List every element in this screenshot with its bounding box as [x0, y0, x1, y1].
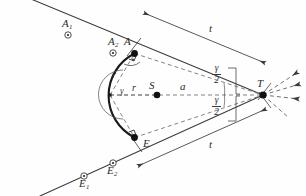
- radius-lines: [110, 54, 157, 138]
- label-distance-a: a: [180, 81, 186, 92]
- diagram-canvas: A1 A2 A E1 E2 E S T r r a t t γ 2 γ: [0, 0, 306, 196]
- label-t-point: T: [257, 78, 263, 89]
- bisector-and-chords: [110, 54, 263, 138]
- label-e2: E2: [107, 165, 117, 178]
- point-E: [131, 134, 138, 141]
- label-radius-upper: r: [112, 70, 116, 80]
- label-tangent-lower: t: [209, 139, 212, 150]
- center-point-m: [108, 93, 111, 96]
- label-a: A: [124, 36, 131, 47]
- point-A1: [65, 32, 71, 38]
- label-e1: E1: [79, 178, 89, 191]
- curve-construction-figure: [0, 0, 306, 196]
- lower-tangent-line: [40, 95, 263, 196]
- label-tangent-upper: t: [209, 23, 212, 34]
- angle-arc-at-a: [124, 62, 140, 66]
- point-A: [131, 50, 138, 57]
- point-A2: [110, 50, 116, 56]
- label-radius-mid: r: [132, 83, 136, 93]
- upper-tangent-line: [14, 0, 263, 95]
- rays-beyond-t: [263, 72, 300, 118]
- angle-brace-at-t: [228, 68, 240, 121]
- label-half-angle-upper: γ 2: [212, 64, 221, 85]
- label-half-angle-lower: γ 2: [212, 96, 221, 117]
- dimension-tangent-lower: [130, 92, 271, 166]
- label-a1: A1: [62, 18, 72, 31]
- label-e: E: [143, 138, 150, 149]
- point-S: [154, 92, 161, 99]
- point-T: [259, 91, 266, 98]
- label-a2: A2: [108, 36, 118, 49]
- label-s: S: [149, 80, 155, 91]
- label-central-angle: γ: [120, 87, 124, 97]
